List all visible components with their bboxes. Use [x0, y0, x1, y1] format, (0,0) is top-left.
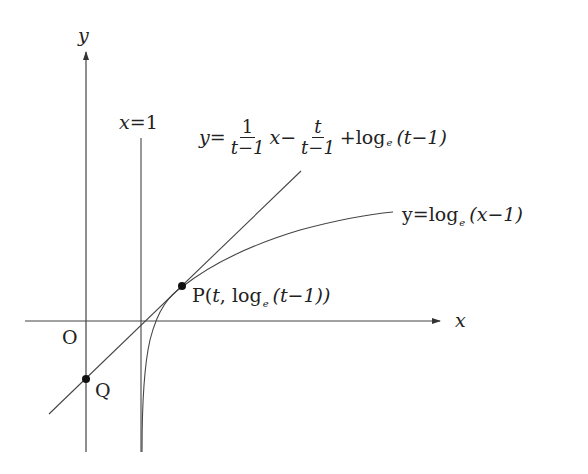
- point-q-label: Q: [95, 381, 111, 400]
- asymptote-label-value: 1: [146, 111, 158, 133]
- tangent-log: +log: [340, 128, 386, 147]
- point-q: [82, 375, 90, 383]
- asymptote-label-x: x: [119, 111, 130, 133]
- offset-denominator: t−1: [299, 138, 337, 157]
- slope-numerator: 1: [240, 118, 255, 138]
- asymptote-label-eq: =: [130, 111, 146, 133]
- curve-equation-label: y=loge(x−1): [402, 205, 523, 224]
- offset-numerator: t: [312, 118, 323, 138]
- tangent-x: x: [269, 128, 280, 147]
- point-p-label: P(t, loge(t−1)): [192, 286, 330, 305]
- origin-label: O: [62, 328, 78, 347]
- curve-log-base: e: [459, 217, 465, 228]
- tangent-minus: −: [280, 128, 296, 147]
- tangent-log-arg: (t−1): [396, 128, 446, 147]
- p-name: P: [192, 284, 205, 306]
- log-curve: [142, 212, 393, 452]
- p-t: t: [212, 284, 220, 306]
- asymptote-label: x=1: [119, 113, 158, 132]
- curve-log-arg: (x−1): [469, 203, 523, 225]
- tangent-slope-fraction: 1 t−1: [229, 118, 267, 157]
- slope-denominator: t−1: [229, 138, 267, 157]
- point-p: [178, 282, 186, 290]
- p-log-arg: (t−1)): [273, 284, 331, 306]
- p-log-base: e: [263, 298, 269, 309]
- y-axis-label: y: [78, 26, 89, 45]
- tangent-eq: =: [210, 128, 226, 147]
- tangent-offset-fraction: t t−1: [299, 118, 337, 157]
- p-log: , log: [220, 284, 262, 306]
- tangent-y: y: [199, 128, 210, 147]
- curve-prefix: y=log: [402, 203, 458, 225]
- x-axis-label: x: [455, 311, 466, 330]
- tangent-equation-label: y = 1 t−1 x − t t−1 +loge(t−1): [199, 118, 447, 157]
- graph-canvas: [0, 0, 588, 474]
- tangent-log-base: e: [386, 138, 392, 148]
